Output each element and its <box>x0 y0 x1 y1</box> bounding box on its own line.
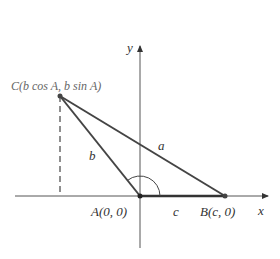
point-c-label: C(b cos A, b sin A) <box>11 79 101 93</box>
point-a-label: A(0, 0) <box>90 204 127 219</box>
point-a <box>138 194 143 199</box>
point-c <box>58 94 63 99</box>
y-axis-label: y <box>125 40 133 55</box>
point-b <box>223 194 228 199</box>
point-b-label: B(c, 0) <box>200 204 235 219</box>
x-axis-label: x <box>257 203 264 218</box>
side-b-label: b <box>89 148 96 163</box>
law-of-cosines-diagram: y x C(b cos A, b sin A) A(0, 0) B(c, 0) … <box>0 0 280 259</box>
side-c-label: c <box>173 204 179 219</box>
side-a-label: a <box>158 138 165 153</box>
side-a <box>60 96 225 196</box>
side-b <box>60 96 140 196</box>
